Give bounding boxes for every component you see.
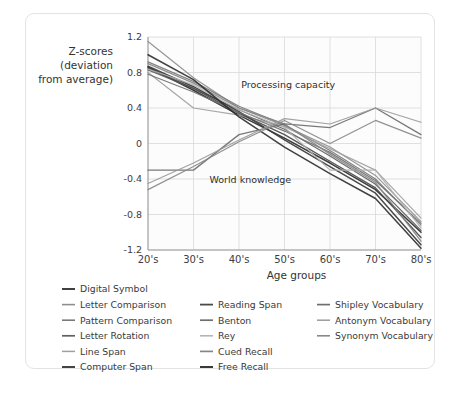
x-axis-tick-labels: 20's30's40's50's60's70's80's [138, 254, 432, 265]
legend-label: Computer Span [80, 361, 153, 372]
legend-label: Synonym Vocabulary [335, 330, 433, 341]
legend-item[interactable]: Letter Rotation [62, 330, 150, 341]
y-tick-label: 1.2 [127, 31, 142, 42]
legend-item[interactable]: Benton [200, 315, 251, 326]
x-tick-label: 80's [411, 254, 432, 265]
x-axis-title: Age groups [267, 269, 327, 281]
legend-item[interactable]: Shipley Vocabulary [317, 299, 424, 310]
y-tick-label: 0.8 [127, 67, 142, 78]
plot-annotation: Processing capacity [241, 79, 335, 90]
legend-item[interactable]: Antonym Vocabulary [317, 315, 432, 326]
y-axis-tick-labels: 1.20.80.40-0.4-0.8-1.2 [123, 31, 142, 255]
legend-label: Digital Symbol [80, 283, 148, 294]
x-axis-title: Age groups [267, 269, 327, 281]
legend-item[interactable]: Computer Span [62, 361, 153, 372]
legend-item[interactable]: Pattern Comparison [62, 315, 172, 326]
y-tick-label: 0 [136, 138, 142, 149]
legend-label: Pattern Comparison [80, 315, 172, 326]
x-tick-label: 60's [320, 254, 341, 265]
x-tick-label: 20's [138, 254, 159, 265]
plot-annotation: World knowledge [209, 174, 291, 185]
y-tick-label: -0.4 [123, 173, 142, 184]
y-axis-title-line: Z-scores [69, 45, 113, 57]
line-chart: 1.20.80.40-0.4-0.8-1.2 20's30's40's50's6… [0, 0, 460, 395]
legend-item[interactable]: Reading Span [200, 299, 282, 310]
y-tick-label: 0.4 [127, 102, 142, 113]
legend-item[interactable]: Synonym Vocabulary [317, 330, 433, 341]
legend-label: Shipley Vocabulary [335, 299, 424, 310]
x-tick-label: 40's [229, 254, 250, 265]
x-tick-label: 30's [183, 254, 204, 265]
chart-legend: Digital SymbolLetter ComparisonPattern C… [62, 283, 433, 372]
y-axis-title-line: (deviation [60, 59, 113, 71]
legend-item[interactable]: Rey [200, 330, 236, 341]
legend-label: Cued Recall [218, 346, 273, 357]
legend-label: Benton [218, 315, 251, 326]
legend-label: Rey [218, 330, 236, 341]
legend-item[interactable]: Cued Recall [200, 346, 273, 357]
x-tick-label: 70's [365, 254, 386, 265]
legend-label: Free Recall [218, 361, 268, 372]
legend-label: Line Span [80, 346, 126, 357]
legend-item[interactable]: Letter Comparison [62, 299, 166, 310]
y-axis-title: Z-scores(deviationfrom average) [38, 45, 113, 85]
y-axis-title-line: from average) [38, 73, 113, 85]
legend-label: Antonym Vocabulary [335, 315, 432, 326]
x-tick-label: 50's [274, 254, 295, 265]
y-tick-label: -0.8 [123, 209, 142, 220]
legend-label: Reading Span [218, 299, 282, 310]
legend-item[interactable]: Digital Symbol [62, 283, 148, 294]
legend-label: Letter Comparison [80, 299, 166, 310]
legend-label: Letter Rotation [80, 330, 150, 341]
legend-item[interactable]: Free Recall [200, 361, 268, 372]
legend-item[interactable]: Line Span [62, 346, 126, 357]
